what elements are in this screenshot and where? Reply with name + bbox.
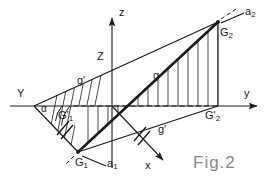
- figure-container: Y y z x Z α g' g' g G1 G2 G'1 G'2 a1 a2 …: [0, 0, 273, 190]
- point-label-G2-subscript: 2: [229, 31, 233, 40]
- point-label-G2-letter: G: [220, 26, 229, 38]
- trace-label-a2-subscript: 2: [251, 10, 255, 19]
- point-label-G2: G2: [220, 27, 233, 40]
- point-label-G1-subscript: 1: [84, 161, 88, 170]
- point-label-G1-prime-letter: G: [58, 109, 67, 121]
- axis-label-Y: Y: [17, 88, 24, 99]
- point-label-G1-prime: G'1: [58, 110, 73, 123]
- point-label-G1-letter: G: [75, 156, 84, 168]
- trace-label-a1-subscript: 1: [113, 162, 117, 171]
- hatching-slanted-band: [44, 60, 104, 160]
- line-label-g-prime-upper: g': [77, 75, 85, 86]
- angle-label-alpha: α: [41, 104, 47, 114]
- trace-label-a2: a2: [245, 6, 256, 19]
- point-label-G1-prime-subscript: 1: [69, 114, 73, 123]
- trace-label-a1: a1: [107, 158, 118, 171]
- axis-label-x: x: [145, 160, 151, 171]
- line-label-g-prime-lower: g': [158, 124, 166, 135]
- edge-G1-to-G2prime: [78, 106, 218, 152]
- point-label-G2-prime-letter: G: [205, 109, 214, 121]
- axis-label-z: z: [119, 7, 125, 18]
- point-label-G1: G1: [75, 157, 88, 170]
- point-label-G2-prime: G'2: [205, 110, 220, 123]
- edge-Y-to-G2: [34, 22, 218, 106]
- axis-label-y: y: [244, 88, 250, 99]
- point-label-G2-prime-subscript: 2: [216, 114, 220, 123]
- figure-caption: Fig.2: [193, 154, 236, 171]
- trace-a2-dashed: [221, 9, 244, 23]
- line-label-g: g: [153, 70, 159, 81]
- height-label-Z: Z: [97, 51, 104, 62]
